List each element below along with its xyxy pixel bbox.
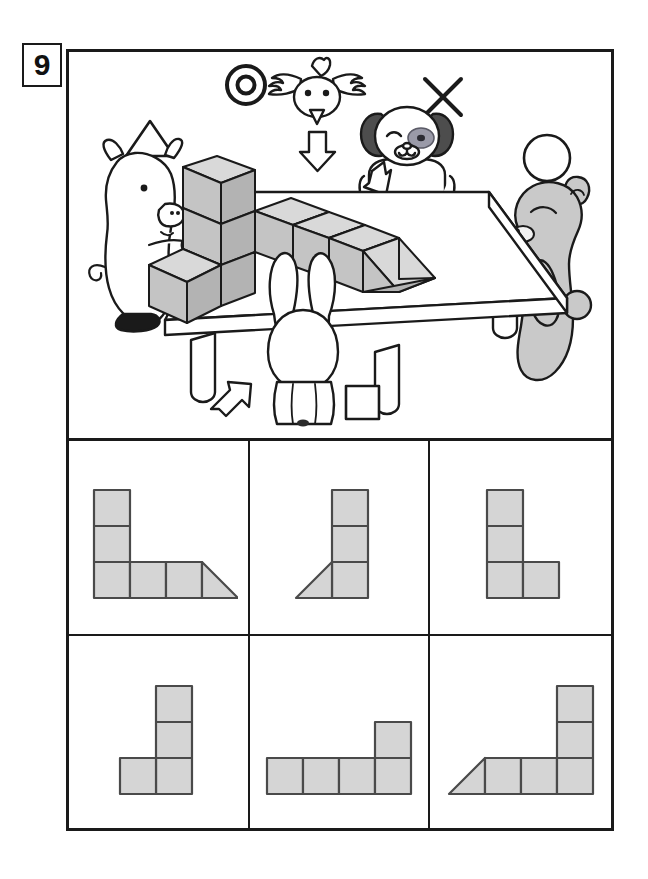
- scene-panel: [69, 52, 611, 441]
- question-number: 9: [34, 50, 51, 80]
- answer-options-grid: [69, 441, 611, 831]
- question-frame: [66, 49, 614, 831]
- square-icon: [346, 386, 379, 419]
- answer-option-1[interactable]: [69, 441, 250, 636]
- circle-icon: [524, 135, 570, 181]
- option-6-figure: [441, 664, 601, 804]
- option-5-figure: [259, 664, 419, 804]
- answer-option-3[interactable]: [430, 441, 611, 636]
- option-2-figure: [274, 468, 404, 608]
- question-number-box: 9: [22, 43, 62, 87]
- bird-illustration: [269, 58, 365, 124]
- option-1-figure: [78, 468, 238, 608]
- answer-option-5[interactable]: [250, 636, 431, 831]
- worksheet-page: 9: [0, 0, 648, 879]
- bird-direction-arrow: [300, 132, 335, 171]
- option-4-figure: [98, 664, 218, 804]
- answer-option-6[interactable]: [430, 636, 611, 831]
- answer-option-2[interactable]: [250, 441, 431, 636]
- cross-icon: [425, 79, 461, 115]
- double-circle-icon: [227, 66, 265, 104]
- rabbit-direction-arrow: [211, 382, 251, 416]
- answer-option-4[interactable]: [69, 636, 250, 831]
- scene-illustration: [69, 52, 611, 438]
- option-3-figure: [461, 468, 581, 608]
